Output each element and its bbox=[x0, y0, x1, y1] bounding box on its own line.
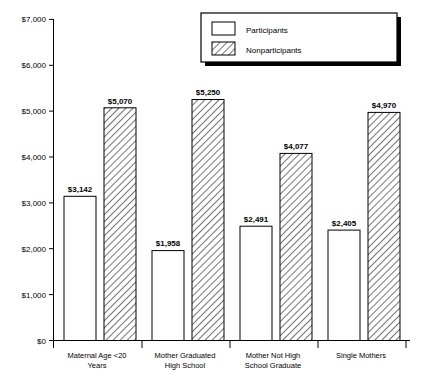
y-tick-5: $5,000 bbox=[22, 107, 54, 116]
bar-value-label: $5,070 bbox=[108, 97, 133, 106]
y-tick-0: $0 bbox=[37, 337, 53, 346]
legend-swatch-nonparticipants bbox=[212, 42, 235, 55]
bar-participants bbox=[152, 251, 184, 341]
legend-swatch-participants bbox=[212, 22, 235, 35]
bar-value-label: $1,958 bbox=[156, 239, 181, 248]
x-tick-label-line2: Years bbox=[88, 361, 107, 370]
y-tick-label: $7,000 bbox=[22, 15, 47, 24]
bar-nonparticipants bbox=[368, 112, 400, 340]
bar-group-single-mothers: $2,405 $4,970 Single Mothers bbox=[328, 101, 400, 360]
legend: Participants Nonparticipants bbox=[201, 13, 401, 66]
bar-group-mother-not-graduate: $2,491 $4,077 Mother Not High School Gra… bbox=[240, 142, 312, 370]
y-tick-label: $5,000 bbox=[22, 107, 47, 116]
y-tick-4: $4,000 bbox=[22, 153, 54, 162]
bar-group-maternal-age: $3,142 $5,070 Maternal Age <20 Years bbox=[64, 97, 136, 371]
bar-value-label: $2,405 bbox=[332, 219, 357, 228]
bar-value-label: $5,250 bbox=[196, 88, 221, 97]
bar-value-label: $4,077 bbox=[284, 142, 309, 151]
bar-group-mother-graduated: $1,958 $5,250 Mother Graduated High Scho… bbox=[152, 88, 224, 370]
bar-participants bbox=[328, 230, 360, 340]
bar-participants bbox=[64, 196, 96, 340]
x-axis-group-separators bbox=[54, 341, 407, 349]
y-tick-7: $7,000 bbox=[22, 15, 54, 24]
y-axis-ticks: $0 $1,000 $2,000 $3,000 $4,000 $5,000 bbox=[22, 15, 54, 345]
bar-nonparticipants bbox=[280, 153, 312, 340]
x-tick-label-line1: Single Mothers bbox=[336, 351, 386, 360]
y-tick-1: $1,000 bbox=[22, 291, 54, 300]
x-tick-label-line1: Mother Not High bbox=[246, 351, 301, 360]
x-tick-label-line1: Maternal Age <20 bbox=[67, 351, 126, 360]
bar-value-label: $2,491 bbox=[244, 215, 269, 224]
bar-nonparticipants bbox=[192, 100, 224, 341]
y-tick-label: $1,000 bbox=[22, 291, 47, 300]
y-tick-3: $3,000 bbox=[22, 199, 54, 208]
chart-container: $0 $1,000 $2,000 $3,000 $4,000 $5,000 bbox=[0, 0, 423, 386]
bar-participants bbox=[240, 226, 272, 340]
y-tick-label: $2,000 bbox=[22, 245, 47, 254]
bar-chart: $0 $1,000 $2,000 $3,000 $4,000 $5,000 bbox=[0, 0, 423, 386]
x-tick-label-line1: Mother Graduated bbox=[155, 351, 216, 360]
bar-nonparticipants bbox=[104, 108, 136, 341]
y-tick-label: $6,000 bbox=[22, 61, 47, 70]
x-tick-label-line2: High School bbox=[165, 361, 206, 370]
x-tick-label-line2: School Graduate bbox=[245, 361, 301, 370]
y-tick-label: $4,000 bbox=[22, 153, 47, 162]
legend-label-participants: Participants bbox=[246, 26, 288, 35]
bar-value-label: $4,970 bbox=[372, 101, 397, 110]
bar-value-label: $3,142 bbox=[68, 185, 93, 194]
y-tick-label: $3,000 bbox=[22, 199, 47, 208]
y-tick-6: $6,000 bbox=[22, 61, 54, 70]
legend-label-nonparticipants: Nonparticipants bbox=[246, 46, 302, 55]
y-tick-label: $0 bbox=[37, 337, 46, 346]
y-tick-2: $2,000 bbox=[22, 245, 54, 254]
